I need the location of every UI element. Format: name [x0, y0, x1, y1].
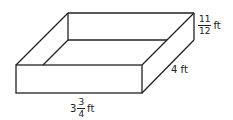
height-label: 11 12 ft [197, 15, 221, 36]
left-top-edge [16, 13, 68, 65]
length-fraction: 3 4 [77, 98, 85, 119]
front-face [16, 65, 142, 93]
width-label: 4 ft [171, 65, 188, 75]
right-top-edge [142, 13, 194, 65]
length-label: 3 3 4 ft [70, 98, 94, 119]
height-fraction: 11 12 [198, 15, 211, 36]
length-unit: ft [87, 104, 94, 114]
length-whole: 3 [70, 104, 76, 114]
height-unit: ft [213, 21, 220, 31]
inner-left-bottom [43, 40, 68, 65]
